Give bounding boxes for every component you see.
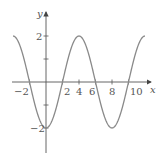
- x-tick-label: 10: [130, 86, 143, 97]
- y-tick-label-top: 2: [36, 31, 42, 42]
- x-tick-label: 4: [76, 86, 82, 97]
- sine-chart: x y 2 −2 −2 2 4 6 8 10: [0, 0, 164, 163]
- x-axis-label: x: [150, 84, 156, 95]
- y-axis-label: y: [36, 8, 43, 19]
- x-tick-label: −2: [14, 86, 29, 97]
- x-tick-label: 2: [64, 86, 70, 97]
- x-tick-label: 8: [109, 86, 115, 97]
- y-tick-label-bottom: −2: [30, 123, 45, 134]
- x-tick-label: 6: [89, 86, 95, 97]
